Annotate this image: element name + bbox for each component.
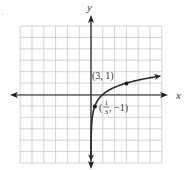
graph: x y (3, 1) ( 1 3 , −1) [0,0,184,170]
x-axis-label: x [175,89,181,101]
svg-text:, −1): , −1) [109,102,128,114]
x-axis [10,92,168,98]
y-axis-label: y [86,1,92,13]
point-3-1 [125,82,129,86]
fraction-numerator: 1 [105,99,109,107]
point-third-neg1 [93,105,97,109]
fraction-denominator: 3 [105,108,109,116]
point-third-neg1-label: ( 1 3 , −1) [99,99,128,116]
point-3-1-label: (3, 1) [92,70,114,82]
log-curve [91,76,158,157]
